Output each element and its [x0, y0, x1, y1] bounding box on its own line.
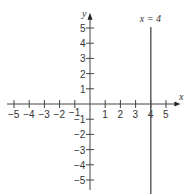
y-tick-label: 1 [80, 84, 86, 95]
y-tick-label: −5 [74, 175, 86, 186]
x-tick-label: 1 [102, 109, 108, 120]
x-tick-label: −4 [23, 109, 35, 120]
x-tick-label: 3 [133, 109, 139, 120]
y-tick-label: 2 [80, 69, 86, 80]
coordinate-plane: xy−5−4−3−2−112345−5−4−3−2−112345x = 4 [0, 0, 186, 194]
y-tick-label: −1 [74, 114, 86, 125]
x-tick-label: 5 [163, 109, 169, 120]
y-axis-arrow-icon [88, 13, 93, 20]
x-tick-label: −5 [8, 109, 20, 120]
y-tick-label: 5 [80, 23, 86, 34]
x-tick-label: −3 [38, 109, 50, 120]
y-tick-label: −2 [74, 129, 86, 140]
y-tick-label: −4 [74, 160, 86, 171]
x-tick-label: 2 [117, 109, 123, 120]
y-tick-label: 4 [80, 38, 86, 49]
x-tick-label: −2 [54, 109, 66, 120]
y-axis-label: y [81, 8, 87, 19]
y-tick-label: 3 [80, 53, 86, 64]
y-tick-label: −3 [74, 145, 86, 156]
x-axis-arrow-icon [174, 102, 180, 107]
line-label: x = 4 [139, 13, 161, 24]
x-axis-label: x [178, 91, 184, 102]
